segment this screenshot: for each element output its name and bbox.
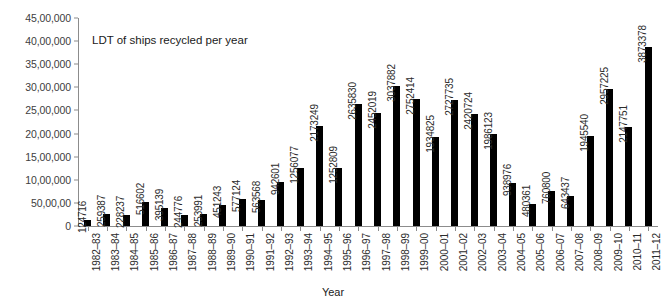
bar-value-label: 480361 — [522, 185, 532, 217]
x-axis-tick: 1984–85 — [117, 227, 136, 283]
bar-value-label: 1256077 — [290, 146, 300, 184]
bar-value-label: 2147751 — [619, 105, 629, 143]
x-axis-title: Year — [0, 286, 666, 298]
bar-chart: LDT of ships recycled per year 050,00,00… — [0, 0, 666, 305]
bar-slot: 2727735 — [445, 18, 464, 226]
x-axis-tick: 2001–02 — [445, 227, 464, 283]
bar — [606, 89, 613, 226]
x-axis-tick: 2004–05 — [503, 227, 522, 283]
x-axis-tick: 1993–94 — [291, 227, 310, 283]
x-axis: 1982–831983–841984–851985–861986–871987–… — [78, 227, 658, 283]
x-axis-tick-mark — [590, 227, 591, 231]
x-axis-tick: 1982–83 — [78, 227, 97, 283]
bar-slot: 938976 — [503, 18, 522, 226]
x-axis-tick: 1994–95 — [310, 227, 329, 283]
bar — [471, 114, 478, 226]
x-axis-tick-mark — [513, 227, 514, 231]
x-axis-tick-mark — [455, 227, 456, 231]
y-axis-tick-label: 30,00,000 — [25, 81, 78, 93]
x-axis-tick-mark — [146, 227, 147, 231]
bar-slot: 1934825 — [426, 18, 445, 226]
x-axis-tick: 1995–96 — [329, 227, 348, 283]
x-axis-tick: 1986–87 — [155, 227, 174, 283]
bar-slot: 480361 — [523, 18, 542, 226]
y-axis-tick-label: 40,00,000 — [25, 35, 78, 47]
bar-slot: 2635830 — [349, 18, 368, 226]
bar-slot: 259387 — [97, 18, 116, 226]
bar-slot: 2752414 — [407, 18, 426, 226]
x-axis-tick-mark — [571, 227, 572, 231]
bar — [451, 100, 458, 226]
bar-value-label: 942601 — [271, 163, 281, 195]
x-axis-tick: 1992–93 — [271, 227, 290, 283]
x-axis-tick: 2010–11 — [619, 227, 638, 283]
bar-slot: 577124 — [233, 18, 252, 226]
x-axis-tick: 2009–10 — [600, 227, 619, 283]
bar-slot: 2420724 — [465, 18, 484, 226]
bar — [413, 99, 420, 226]
bar-slot: 760800 — [542, 18, 561, 226]
bar-slot: 643437 — [561, 18, 580, 226]
x-axis-tick-mark — [339, 227, 340, 231]
bar-value-label: 2957225 — [600, 68, 610, 106]
bar-slot: 395139 — [155, 18, 174, 226]
x-axis-tick: 1989–90 — [213, 227, 232, 283]
bar-value-label: 2420724 — [464, 92, 474, 130]
bar-value-label: 760800 — [542, 172, 552, 204]
x-axis-tick: 1998–99 — [387, 227, 406, 283]
bar-slot: 228237 — [117, 18, 136, 226]
x-axis-tick: 2008–09 — [581, 227, 600, 283]
x-axis-tick: 1988–89 — [194, 227, 213, 283]
bar-slot: 1252809 — [329, 18, 348, 226]
y-axis-tick-label: 50,00,00 — [31, 197, 78, 209]
bar-series: 1247162593872282375166023951392447762539… — [78, 18, 658, 226]
x-axis-tick: 1997–98 — [368, 227, 387, 283]
bar-value-label: 3037882 — [387, 64, 397, 102]
bar-value-label: 228237 — [116, 196, 126, 228]
bar-slot: 516602 — [136, 18, 155, 226]
x-axis-tick: 1996–97 — [349, 227, 368, 283]
x-axis-tick: 2002–03 — [465, 227, 484, 283]
x-axis-tick-mark — [204, 227, 205, 231]
x-axis-tick-mark — [629, 227, 630, 231]
x-axis-tick-label: 2011–12 — [652, 233, 662, 271]
y-axis-tick-label: 35,00,000 — [25, 58, 78, 70]
x-axis-tick-mark — [107, 227, 108, 231]
x-axis-tick-mark — [281, 227, 282, 231]
bar-slot: 1986123 — [484, 18, 503, 226]
x-axis-tick-mark — [88, 227, 89, 231]
y-axis-tick-label: 20,00,000 — [25, 128, 78, 140]
x-axis-tick-mark — [165, 227, 166, 231]
x-axis-tick-mark — [436, 227, 437, 231]
bar-slot: 2173249 — [310, 18, 329, 226]
bar-slot: 3037882 — [387, 18, 406, 226]
y-axis-tick-label: 25,00,000 — [25, 104, 78, 116]
bar-value-label: 1934825 — [426, 115, 436, 153]
x-axis-tick-mark — [184, 227, 185, 231]
bar-slot: 2452019 — [368, 18, 387, 226]
x-axis-tick-mark — [552, 227, 553, 231]
x-axis-tick: 1985–86 — [136, 227, 155, 283]
x-axis-tick: 2007–08 — [561, 227, 580, 283]
bar-value-label: 1252809 — [329, 146, 339, 184]
bar-slot: 3873378 — [639, 18, 658, 226]
bar-value-label: 1945540 — [580, 114, 590, 152]
x-axis-tick-mark — [300, 227, 301, 231]
bar-value-label: 3873378 — [638, 25, 648, 63]
bar-value-label: 577124 — [232, 180, 242, 212]
plot-area: 050,00,0010,00,00015,00,00020,00,00025,0… — [78, 18, 658, 226]
x-axis-tick: 1987–88 — [175, 227, 194, 283]
x-axis-tick: 2003–04 — [484, 227, 503, 283]
bar-value-label: 563568 — [252, 181, 262, 213]
x-axis-tick-mark — [397, 227, 398, 231]
x-axis-tick: 2005–06 — [523, 227, 542, 283]
bar-value-label: 2173249 — [310, 104, 320, 142]
x-axis-tick: 1991–92 — [252, 227, 271, 283]
bar-slot: 451243 — [213, 18, 232, 226]
x-axis-tick: 2011–12 — [639, 227, 658, 283]
bar — [393, 86, 400, 226]
bar-value-label: 2752414 — [406, 77, 416, 115]
bar-value-label: 643437 — [561, 177, 571, 209]
x-axis-tick-mark — [416, 227, 417, 231]
x-axis-tick-mark — [378, 227, 379, 231]
